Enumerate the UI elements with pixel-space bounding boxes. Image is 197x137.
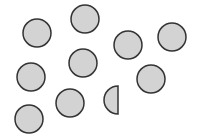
shapes-group [15,5,186,133]
circle-4 [158,23,186,51]
circle-2 [71,5,99,33]
circle-6 [17,63,45,91]
circle-3 [114,31,142,59]
circle-8 [56,89,84,117]
circle-7 [137,65,165,93]
circle-5 [69,49,97,77]
half-circle-1 [104,86,118,114]
circle-9 [15,105,43,133]
circle-diagram [0,0,197,137]
circle-1 [23,19,51,47]
